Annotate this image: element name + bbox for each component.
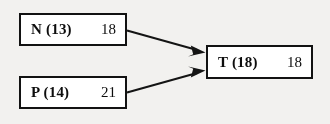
edge-p-to-t <box>127 66 206 92</box>
diagram-canvas: N (13) 18 P (14) 21 T (18) 18 <box>0 0 330 124</box>
edge-p-to-t-arrowhead <box>188 66 206 77</box>
node-t-label: T (18) <box>218 54 258 71</box>
edge-n-to-t-arrowhead <box>188 45 206 56</box>
node-n-label: N (13) <box>31 21 72 38</box>
node-t-value: 18 <box>287 54 302 71</box>
node-n-value: 18 <box>101 21 116 38</box>
edge-p-to-t-line <box>127 73 197 93</box>
node-box-t: T (18) 18 <box>206 45 313 79</box>
edge-n-to-t <box>127 31 206 57</box>
node-box-n: N (13) 18 <box>19 13 127 46</box>
node-p-label: P (14) <box>31 84 69 101</box>
node-p-value: 21 <box>101 84 116 101</box>
node-box-p: P (14) 21 <box>19 76 127 109</box>
edge-n-to-t-line <box>127 31 197 51</box>
